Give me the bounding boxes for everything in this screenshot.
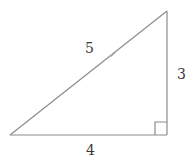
hypotenuse-length-label: 5 (85, 41, 94, 55)
base-leg-length-label: 4 (86, 143, 95, 157)
triangle-drawing (0, 0, 195, 164)
vertical-leg-length-label: 3 (177, 67, 186, 81)
triangle-side-hypotenuse (10, 11, 167, 135)
geometry-figure: 5 3 4 (0, 0, 195, 164)
right-angle-marker-icon (155, 122, 167, 135)
